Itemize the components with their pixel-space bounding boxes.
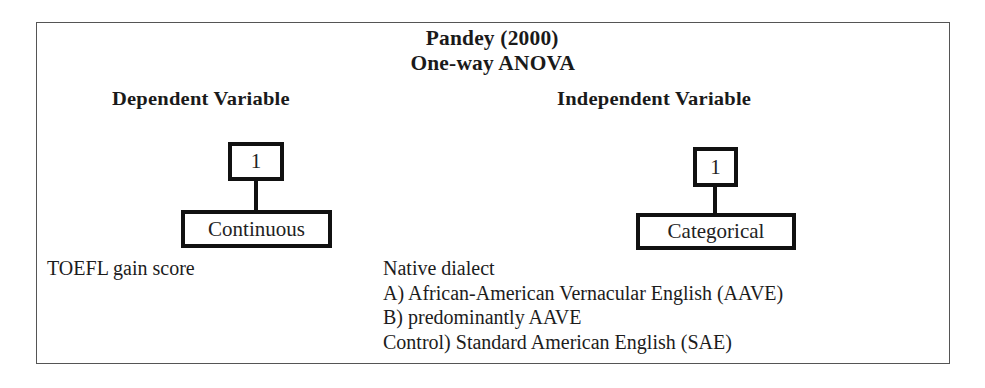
diagram-subtitle: One-way ANOVA bbox=[0, 51, 985, 76]
dependent-count: 1 bbox=[251, 149, 262, 174]
dependent-type-box: Continuous bbox=[181, 210, 332, 248]
level-item: Control) Standard American English (SAE) bbox=[383, 330, 783, 355]
independent-type: Categorical bbox=[668, 219, 765, 244]
dependent-type: Continuous bbox=[208, 217, 305, 242]
diagram-title: Pandey (2000) bbox=[0, 26, 985, 51]
independent-count-box: 1 bbox=[693, 147, 738, 187]
level-item: A) African-American Vernacular English (… bbox=[383, 281, 783, 306]
dependent-count-box: 1 bbox=[228, 142, 284, 181]
dependent-variable-name: TOEFL gain score bbox=[47, 256, 195, 280]
independent-count: 1 bbox=[710, 155, 721, 180]
dependent-variable-heading: Dependent Variable bbox=[112, 88, 290, 110]
independent-variable-name: Native dialect bbox=[383, 256, 783, 281]
anova-diagram: Pandey (2000) One-way ANOVA Dependent Va… bbox=[0, 0, 985, 388]
independent-type-box: Categorical bbox=[636, 213, 796, 250]
independent-variable-details: Native dialect A) African-American Verna… bbox=[383, 256, 783, 354]
independent-variable-heading: Independent Variable bbox=[557, 88, 751, 110]
dependent-connector-line bbox=[254, 180, 258, 211]
independent-connector-line bbox=[713, 186, 717, 214]
level-item: B) predominantly AAVE bbox=[383, 305, 783, 330]
